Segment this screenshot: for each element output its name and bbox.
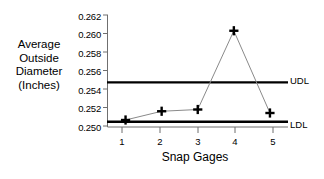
x-tick-label: 3: [188, 137, 208, 147]
x-tick-label: 1: [112, 137, 132, 147]
x-tick-label: 2: [150, 137, 170, 147]
ldl-label: LDL: [290, 120, 307, 130]
chart-container: Average Outside Diameter (Inches) 0.262 …: [0, 0, 324, 179]
x-axis-title: Snap Gages: [105, 150, 285, 164]
udl-label: UDL: [290, 76, 309, 86]
x-tick-label: 4: [225, 137, 245, 147]
x-tick-label: 5: [263, 137, 283, 147]
